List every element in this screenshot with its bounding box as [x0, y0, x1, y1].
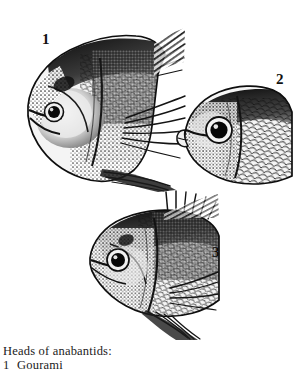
illustration-plate: 1	[0, 0, 304, 373]
fish-figure-1	[8, 14, 186, 192]
figure-label-3: 3	[212, 245, 220, 260]
caption-entry: 1 Gourami	[3, 358, 293, 372]
caption-entry-name: Gourami	[17, 358, 63, 372]
fish-eye	[206, 117, 232, 143]
fish-eye	[45, 103, 64, 122]
plate-caption: Heads of anabantids: 1 Gourami	[3, 344, 293, 372]
caption-list: 1 Gourami	[3, 358, 293, 372]
figure-label-2: 2	[276, 72, 284, 87]
figure-label-1: 1	[42, 32, 50, 47]
fish-figure-2	[175, 72, 293, 188]
caption-entry-number: 1	[3, 358, 10, 372]
fish-figure-3	[84, 188, 220, 340]
fish-eye	[107, 249, 129, 271]
caption-title: Heads of anabantids:	[3, 344, 293, 358]
